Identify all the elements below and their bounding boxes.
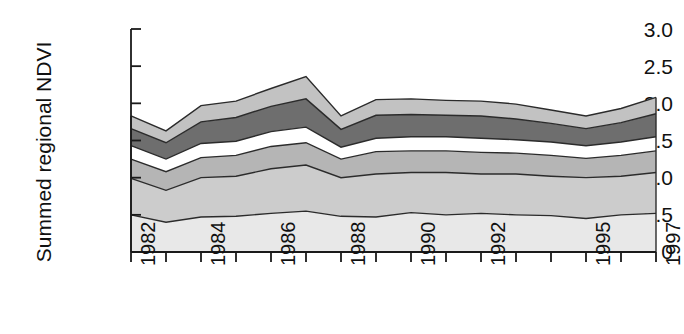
- x-tick-label-1990: 1990: [418, 222, 438, 267]
- x-tick-label-1986: 1986: [278, 222, 298, 267]
- x-tick-label-1992: 1992: [488, 222, 508, 267]
- x-tick-label-1982: 1982: [138, 222, 158, 267]
- x-tick-label-1997: 1997: [663, 222, 683, 267]
- x-tick-label-1988: 1988: [348, 222, 368, 267]
- x-tick-label-1995: 1995: [593, 222, 613, 267]
- x-tick-label-1984: 1984: [208, 222, 228, 267]
